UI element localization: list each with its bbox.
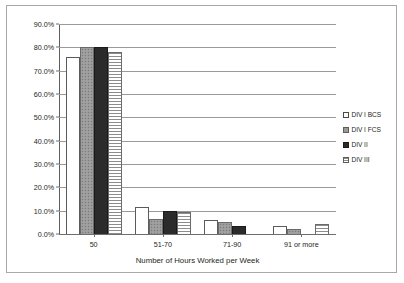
x-tick-label: 51-70 <box>154 240 172 249</box>
y-tick-label: 30.0% <box>34 160 54 169</box>
x-tick-label: 71-90 <box>223 240 241 249</box>
x-tick-mark <box>301 234 302 237</box>
bar <box>287 229 301 234</box>
y-tick-label: 70.0% <box>34 66 54 75</box>
plot-area: 0.0%10.0%20.0%30.0%40.0%50.0%60.0%70.0%8… <box>59 24 336 234</box>
legend-item: DIV I FCS <box>343 122 399 137</box>
legend-label: DIV III <box>352 156 370 163</box>
y-tick-label: 50.0% <box>34 113 54 122</box>
chart-frame: 0.0%10.0%20.0%30.0%40.0%50.0%60.0%70.0%8… <box>6 5 397 273</box>
x-tick-mark <box>232 234 233 237</box>
bar <box>232 226 246 234</box>
gridline <box>59 234 336 235</box>
bar <box>135 207 149 234</box>
bar <box>273 226 287 234</box>
y-tick-label: 60.0% <box>34 90 54 99</box>
x-tick-mark <box>163 234 164 237</box>
bar <box>218 222 232 234</box>
legend-swatch-icon <box>343 127 349 133</box>
y-tick-label: 90.0% <box>34 20 54 29</box>
bar <box>163 211 177 234</box>
y-tick-label: 20.0% <box>34 183 54 192</box>
bar-group <box>59 24 128 234</box>
x-axis-title: Number of Hours Worked per Week <box>59 256 336 265</box>
legend-swatch-icon <box>343 157 349 163</box>
legend-label: DIV II <box>352 141 368 148</box>
bar <box>94 47 108 234</box>
y-tick-label: 40.0% <box>34 136 54 145</box>
bar <box>80 47 94 234</box>
chart-legend: DIV I BCSDIV I FCSDIV IIDIV III <box>343 107 399 167</box>
bar <box>108 52 122 234</box>
bar-group <box>198 24 267 234</box>
bar <box>177 212 191 234</box>
legend-item: DIV III <box>343 152 399 167</box>
bar <box>149 219 163 234</box>
legend-label: DIV I BCS <box>352 111 382 118</box>
bar <box>315 224 329 235</box>
legend-swatch-icon <box>343 112 349 118</box>
legend-label: DIV I FCS <box>352 126 381 133</box>
bar <box>66 57 80 234</box>
y-tick-label: 0.0% <box>38 230 54 239</box>
bar-group <box>128 24 197 234</box>
legend-swatch-icon <box>343 142 349 148</box>
y-tick-label: 10.0% <box>34 206 54 215</box>
x-tick-label: 91 or more <box>284 240 319 249</box>
y-tick-label: 80.0% <box>34 43 54 52</box>
x-tick-label: 50 <box>90 240 98 249</box>
x-tick-mark <box>94 234 95 237</box>
bar <box>204 220 218 234</box>
legend-item: DIV II <box>343 137 399 152</box>
legend-item: DIV I BCS <box>343 107 399 122</box>
bar-group <box>267 24 336 234</box>
